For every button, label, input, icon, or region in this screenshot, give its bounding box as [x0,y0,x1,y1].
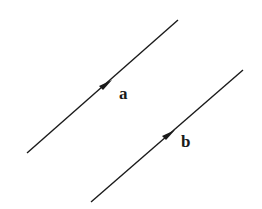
vector-a [27,20,178,153]
parallel-vectors-diagram [0,0,262,209]
vector-b [91,70,243,202]
vector-b-label: b [181,133,190,150]
vector-a-label: a [119,85,128,102]
